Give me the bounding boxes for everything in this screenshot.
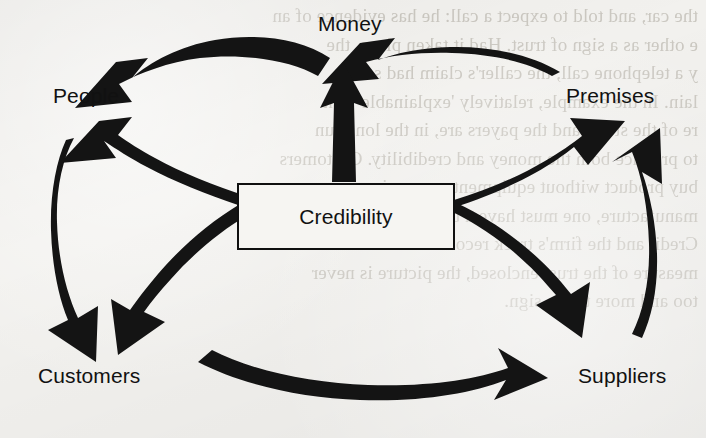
node-label-money: Money	[318, 12, 382, 36]
credibility-box: Credibility	[237, 183, 455, 250]
arrow-customers-to-suppliers	[198, 348, 548, 400]
node-label-customers: Customers	[38, 364, 140, 388]
arrow-credibility-to-people	[60, 117, 246, 205]
arrow-premises-to-money	[322, 38, 560, 84]
arrow-credibility-to-premises	[445, 118, 625, 210]
diagram-canvas: the car, and told to expect a call: he h…	[0, 0, 706, 438]
node-label-premises: Premises	[566, 84, 654, 108]
arrow-suppliers-to-premises	[612, 128, 662, 338]
arrow-credibility-to-customers	[111, 204, 248, 355]
node-label-credibility: Credibility	[299, 205, 392, 229]
arrow-credibility-to-suppliers	[442, 200, 590, 338]
node-label-suppliers: Suppliers	[578, 364, 666, 388]
node-label-people: People	[53, 84, 119, 108]
arrow-people-to-customers	[48, 138, 98, 362]
